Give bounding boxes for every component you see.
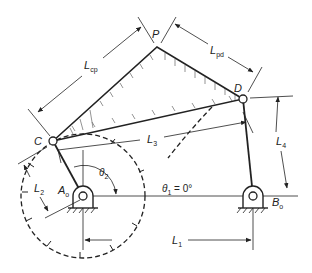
coupler-link [53, 47, 243, 141]
four-bar-linkage-diagram: P D C Ao Bo Lcp Lpd L3 L4 L2 L1 θ2 θ1 = … [0, 0, 312, 273]
dim-l4 [250, 96, 293, 188]
label-p: P [152, 28, 160, 40]
label-theta1: θ1 = 0° [162, 183, 192, 196]
joint-d [239, 95, 247, 103]
pivot-a0 [67, 186, 98, 213]
label-a0: Ao [57, 184, 69, 198]
label-lcp: Lcp [84, 59, 98, 74]
joint-c [49, 137, 57, 145]
pivot-b0 [237, 186, 268, 213]
dim-l3 [58, 112, 253, 163]
label-lpd: Lpd [210, 44, 224, 59]
label-theta2: θ2 [99, 167, 108, 180]
label-l1: L1 [172, 234, 182, 248]
label-c: C [34, 135, 42, 147]
label-l4: L4 [276, 135, 286, 149]
label-l2: L2 [34, 182, 44, 196]
label-l3: L3 [147, 133, 157, 147]
label-d: D [234, 82, 242, 94]
dim-lcp [28, 17, 154, 136]
label-b0: Bo [272, 196, 283, 210]
rocker-link [243, 99, 253, 196]
